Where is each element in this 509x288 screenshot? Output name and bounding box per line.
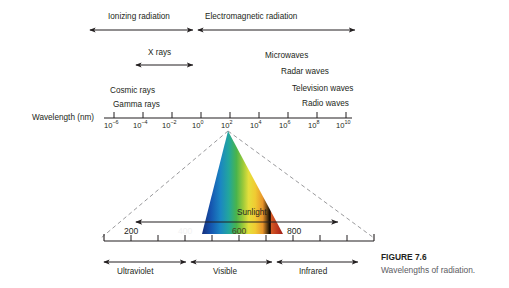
figure-caption-text: Wavelengths of radiation. xyxy=(381,265,475,275)
tick-label-1e-2: 10−2 xyxy=(162,122,177,130)
tick-label-1e-6: 10−6 xyxy=(104,122,119,130)
tick-label-1e2: 102 xyxy=(221,122,232,130)
figure-wavelengths-of-radiation: Ionizing radiation Electromagnetic radia… xyxy=(0,0,509,288)
figure-caption-title: FIGURE 7.6 xyxy=(381,252,427,262)
sunlight-label: Sunlight xyxy=(237,209,267,217)
scale-label-200: 200 xyxy=(124,227,138,236)
source-label-microwaves: Microwaves xyxy=(265,52,308,60)
tick-label-1e10: 1010 xyxy=(336,122,350,130)
scale-label-400: 400 xyxy=(178,227,192,236)
tick-label-1e8: 108 xyxy=(308,122,319,130)
band-label-ionizing-radiation: Ionizing radiation xyxy=(108,13,170,21)
radiation-spectrum-diagram xyxy=(0,0,509,288)
source-label-gamma-rays: Gamma rays xyxy=(113,101,160,109)
tick-label-1e0: 100 xyxy=(192,122,203,130)
band-label-x-rays: X rays xyxy=(148,49,171,57)
source-label-television-waves: Television waves xyxy=(292,85,353,93)
source-label-radar-waves: Radar waves xyxy=(281,68,329,76)
tick-label-1e-4: 10−4 xyxy=(133,122,148,130)
log-wavelength-axis xyxy=(104,112,352,118)
scale-label-600: 600 xyxy=(232,227,246,236)
scale-label-800: 800 xyxy=(287,227,301,236)
band-label-electromagnetic-radiation: Electromagnetic radiation xyxy=(205,13,297,21)
axis-title-wavelength: Wavelength (nm) xyxy=(32,114,94,122)
tick-label-1e4: 104 xyxy=(250,122,261,130)
source-label-radio-waves: Radio waves xyxy=(302,100,349,108)
source-label-cosmic-rays: Cosmic rays xyxy=(110,87,155,95)
region-label-visible: Visible xyxy=(213,268,237,276)
region-label-infrared: Infrared xyxy=(299,268,327,276)
tick-label-1e6: 106 xyxy=(279,122,290,130)
region-label-ultraviolet: Ultraviolet xyxy=(117,268,153,276)
